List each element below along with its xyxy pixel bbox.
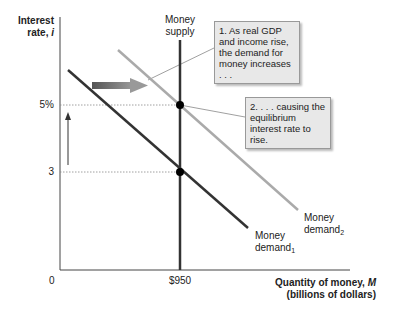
- money-supply-label-line2: supply: [155, 26, 205, 38]
- y-axis-title-line1: Interest: [0, 15, 54, 27]
- money-demand-1-label-line2: demand1: [255, 242, 295, 254]
- chart-canvas: [0, 0, 396, 311]
- y-axis-title: Interest rate, i: [0, 15, 54, 39]
- money-demand-2-label-line2: demand2: [304, 224, 344, 236]
- y-axis-title-line2: rate, i: [0, 27, 54, 39]
- y-tick-3: 3: [20, 166, 54, 178]
- money-demand-2-label-line1: Money: [304, 212, 344, 224]
- origin-label: 0: [49, 275, 55, 287]
- x-axis-title-line1: Quantity of money, M: [230, 277, 376, 289]
- money-demand-2-label: Money demand2: [304, 212, 344, 236]
- x-tick-950: $950: [160, 275, 200, 287]
- money-supply-label: Money supply: [155, 14, 205, 38]
- equilibrium-point-high: [176, 101, 184, 109]
- callout-demand-increase: 1. As real GDP and income rise, the dema…: [214, 21, 300, 84]
- x-axis-title-line2: (billions of dollars): [230, 289, 376, 301]
- equilibrium-point-low: [176, 168, 184, 176]
- callout-rate-rise: 2. . . . causing the equilibrium interes…: [245, 97, 331, 149]
- shift-arrow-icon: [92, 78, 148, 93]
- money-demand-1-label-line1: Money: [255, 230, 295, 242]
- y-tick-5pct: 5%: [20, 99, 54, 111]
- money-demand-1-line: [68, 70, 248, 228]
- money-supply-label-line1: Money: [155, 14, 205, 26]
- x-axis-title: Quantity of money, M (billions of dollar…: [230, 277, 376, 301]
- money-demand-1-label: Money demand1: [255, 230, 295, 254]
- rate-rise-arrow-icon: [65, 112, 71, 165]
